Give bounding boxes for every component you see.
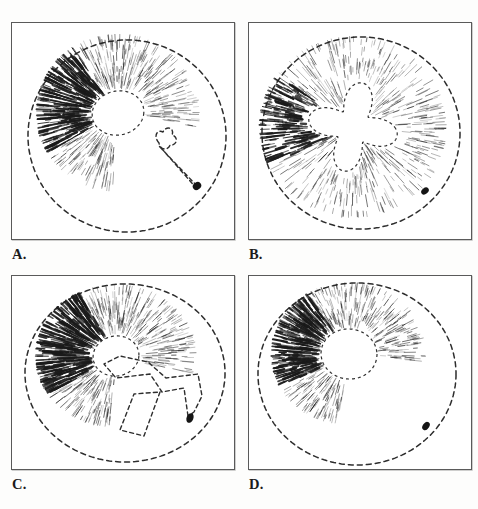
panel-label: B. bbox=[249, 247, 263, 262]
panel-frame bbox=[11, 275, 235, 470]
pith-outline bbox=[93, 336, 139, 376]
cross-section-drawing bbox=[12, 23, 236, 241]
reference-marker bbox=[421, 420, 432, 431]
panel-c: C. bbox=[11, 275, 235, 498]
panel-label: D. bbox=[249, 477, 264, 492]
pith-outline bbox=[92, 91, 144, 135]
panel-label: A. bbox=[12, 247, 27, 262]
panel-d: D. bbox=[248, 275, 472, 498]
panel-b: B. bbox=[248, 22, 472, 268]
figure-plate: A.B.C.D. bbox=[0, 0, 478, 509]
reference-marker bbox=[185, 412, 195, 424]
reference-marker bbox=[191, 180, 203, 191]
panel-a: A. bbox=[11, 22, 235, 268]
cross-section-drawing bbox=[249, 23, 473, 241]
branch-outline bbox=[156, 128, 197, 189]
panel-frame bbox=[11, 22, 235, 240]
panel-frame bbox=[248, 275, 472, 470]
cross-section-drawing bbox=[249, 276, 473, 471]
cross-section-drawing bbox=[12, 276, 236, 471]
panel-frame bbox=[248, 22, 472, 240]
panel-label: C. bbox=[12, 477, 27, 492]
pith-outline bbox=[321, 329, 377, 379]
